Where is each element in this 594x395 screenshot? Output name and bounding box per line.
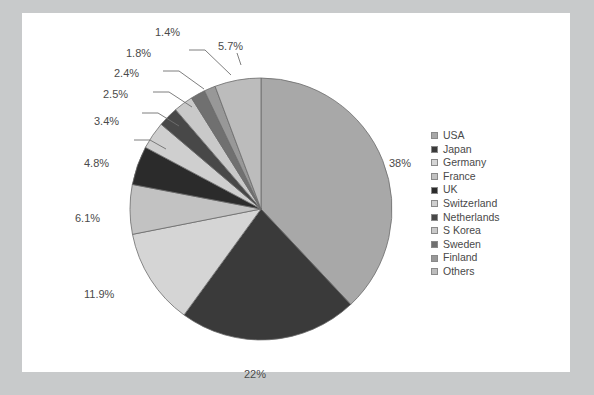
legend-item[interactable]: Japan bbox=[431, 143, 561, 157]
slice-label-skorea: 2.4% bbox=[114, 67, 139, 79]
legend-item[interactable]: Finland bbox=[431, 251, 561, 265]
legend-label: France bbox=[443, 170, 476, 184]
slice-label-others: 5.7% bbox=[218, 40, 243, 52]
legend-item[interactable]: S Korea bbox=[431, 224, 561, 238]
legend-swatch bbox=[431, 146, 438, 153]
legend-item[interactable]: Sweden bbox=[431, 238, 561, 252]
legend-swatch bbox=[431, 200, 438, 207]
legend-item[interactable]: Germany bbox=[431, 156, 561, 170]
slice-label-netherlands: 2.5% bbox=[103, 88, 128, 100]
leader-line bbox=[163, 71, 204, 89]
legend-label: Sweden bbox=[443, 238, 481, 252]
pie-chart: 38% 22% 11.9% 6.1% 4.8% 3.4% 2.5% 2.4% 1… bbox=[22, 13, 570, 372]
slice-label-germany: 11.9% bbox=[84, 288, 114, 300]
chart-page: 38% 22% 11.9% 6.1% 4.8% 3.4% 2.5% 2.4% 1… bbox=[22, 13, 570, 372]
legend-label: Others bbox=[443, 265, 475, 279]
legend-item[interactable]: Netherlands bbox=[431, 211, 561, 225]
slice-label-finland: 1.4% bbox=[155, 26, 180, 38]
leader-line bbox=[237, 53, 241, 65]
legend-item[interactable]: Others bbox=[431, 265, 561, 279]
legend-label: S Korea bbox=[443, 224, 481, 238]
legend-swatch bbox=[431, 241, 438, 248]
legend-swatch bbox=[431, 214, 438, 221]
slice-label-sweden: 1.8% bbox=[126, 47, 151, 59]
slice-label-france: 6.1% bbox=[75, 212, 100, 224]
legend-label: Netherlands bbox=[443, 211, 500, 225]
leader-line bbox=[189, 50, 231, 75]
legend-swatch bbox=[431, 187, 438, 194]
legend-label: Switzerland bbox=[443, 197, 497, 211]
chart-legend: USAJapanGermanyFranceUKSwitzerlandNether… bbox=[431, 129, 561, 279]
image-frame: 38% 22% 11.9% 6.1% 4.8% 3.4% 2.5% 2.4% 1… bbox=[0, 0, 594, 395]
legend-swatch bbox=[431, 268, 438, 275]
legend-label: Japan bbox=[443, 143, 472, 157]
legend-label: USA bbox=[443, 129, 465, 143]
legend-label: UK bbox=[443, 183, 458, 197]
pie-slice-group bbox=[130, 78, 392, 340]
legend-swatch bbox=[431, 255, 438, 262]
legend-swatch bbox=[431, 159, 438, 166]
legend-item[interactable]: France bbox=[431, 170, 561, 184]
slice-label-japan: 22% bbox=[244, 368, 266, 380]
legend-swatch bbox=[431, 227, 438, 234]
slice-label-usa: 38% bbox=[389, 157, 411, 169]
slice-label-uk: 4.8% bbox=[84, 157, 109, 169]
legend-item[interactable]: USA bbox=[431, 129, 561, 143]
legend-swatch bbox=[431, 132, 438, 139]
legend-swatch bbox=[431, 173, 438, 180]
legend-item[interactable]: UK bbox=[431, 183, 561, 197]
slice-label-switzerland: 3.4% bbox=[94, 115, 119, 127]
legend-label: Finland bbox=[443, 251, 477, 265]
legend-label: Germany bbox=[443, 156, 486, 170]
legend-item[interactable]: Switzerland bbox=[431, 197, 561, 211]
